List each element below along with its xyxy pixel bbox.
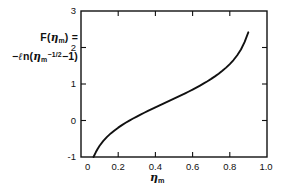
ylabel-n-open: n(	[23, 50, 33, 62]
y-axis-label: F(ηm) = −ℓn(ηm−1/2−1)	[4, 28, 78, 66]
xlabel-sub: m	[158, 176, 164, 185]
x-tick-label-3: 0.6	[186, 161, 199, 172]
ylabel-f-prefix: F(	[40, 31, 50, 43]
ylabel-tail: −1)	[62, 50, 78, 62]
y-tick-label-4: 3	[71, 5, 76, 16]
x-tick-label-4: 0.8	[223, 161, 236, 172]
x-tick-label-1: 0.2	[112, 161, 125, 172]
y-tick-label-0: -1	[68, 151, 76, 162]
ylabel-f-suffix: ) =	[65, 31, 78, 43]
ylabel-eta-2: η	[33, 50, 41, 62]
y-tick-label-1: 0	[71, 115, 76, 126]
x-axis-label: ηm	[150, 171, 164, 185]
data-curve-series-0	[93, 32, 248, 157]
y-axis-label-line-2: −ℓn(ηm−1/2−1)	[4, 47, 78, 66]
xlabel-eta: η	[150, 171, 158, 184]
ylabel-exponent: −1/2	[47, 51, 61, 58]
y-axis-label-line-1: F(ηm) =	[4, 28, 78, 47]
y-tick-label-2: 1	[71, 78, 76, 89]
x-tick-label-5: 1.0	[259, 161, 272, 172]
x-tick-label-0: 0	[85, 161, 90, 172]
figure-panel: 00.20.40.60.81.0-10123 F(ηm) = −ℓn(ηm−1/…	[0, 0, 281, 191]
